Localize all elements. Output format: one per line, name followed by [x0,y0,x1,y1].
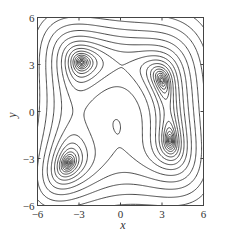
x-axis-label: x [119,218,126,232]
x-tick-label: 3 [159,208,165,220]
contour-chart: −6−3036 −6−3036 x y [0,0,226,237]
contour-line [55,45,185,180]
plot-frame [38,18,204,206]
x-tick-label: −3 [73,208,85,220]
contour-line [67,60,172,165]
contour-lines [38,18,204,206]
x-tick-label: 6 [201,208,207,220]
y-tick-labels: −6−3036 [23,12,35,212]
contour-line [194,18,204,28]
x-tick-labels: −6−3036 [32,208,207,220]
y-tick-label: −6 [23,200,35,212]
y-tick-label: 0 [29,106,35,118]
axis-ticks [38,18,204,206]
contour-line [66,59,173,166]
y-axis-label: y [5,112,19,119]
y-tick-label: −3 [23,153,35,165]
contour-line [38,18,204,206]
y-tick-label: 6 [29,12,35,24]
contour-line [38,18,204,206]
y-tick-label: 3 [29,59,35,71]
